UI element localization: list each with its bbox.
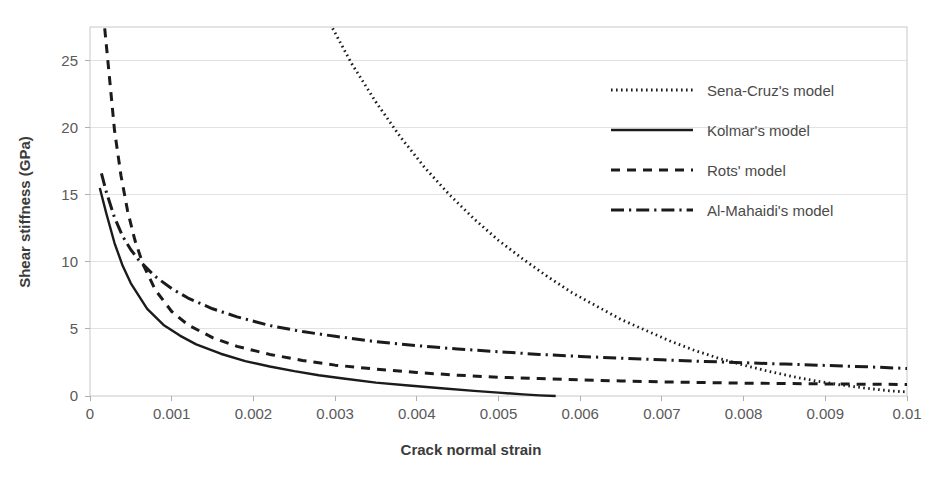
x-axis-title: Crack normal strain [401,441,542,458]
x-tick-label: 0.005 [480,405,518,422]
legend-label-4: Al-Mahaidi's model [707,202,833,219]
chart-background [0,0,945,482]
x-tick-label: 0.006 [561,405,599,422]
x-tick-label: 0.01 [892,405,921,422]
x-tick-label: 0.009 [807,405,845,422]
y-tick-label: 5 [70,320,78,337]
x-tick-label: 0.004 [398,405,436,422]
x-tick-label: 0.002 [235,405,273,422]
x-tick-label: 0.008 [725,405,763,422]
y-tick-label: 10 [61,253,78,270]
x-tick-label: 0.003 [316,405,354,422]
chart-container: 00.0010.0020.0030.0040.0050.0060.0070.00… [0,0,945,482]
y-axis-title: Shear stiffness (GPa) [16,136,33,288]
y-tick-label: 15 [61,186,78,203]
shear-stiffness-chart: 00.0010.0020.0030.0040.0050.0060.0070.00… [0,0,945,482]
x-tick-label: 0.007 [643,405,681,422]
x-tick-label: 0.001 [153,405,191,422]
x-tick-label: 0 [86,405,94,422]
y-tick-label: 25 [61,52,78,69]
legend-label-3: Rots' model [707,162,786,179]
y-tick-label: 0 [70,387,78,404]
y-tick-label: 20 [61,119,78,136]
legend-label-2: Kolmar's model [707,122,810,139]
legend-label-1: Sena-Cruz's model [707,82,834,99]
